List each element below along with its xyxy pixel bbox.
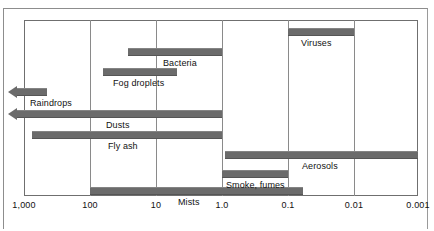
arrow-left-icon <box>8 86 17 98</box>
arrow-left-icon <box>8 108 17 120</box>
x-tick-label: 1,000 <box>12 200 36 211</box>
gridline-100 <box>90 20 91 196</box>
bar-label: Bacteria <box>163 58 197 69</box>
range-bar-bacteria <box>128 48 222 56</box>
range-bar-fly-ash <box>32 131 222 139</box>
range-bar-fog-droplets <box>103 68 177 76</box>
range-bar-dusts <box>17 110 222 118</box>
x-tick-label: 0.1 <box>281 200 294 211</box>
bar-label: Raindrops <box>30 98 72 109</box>
x-tick-label: 0.001 <box>406 200 430 211</box>
x-tick-label: 0.01 <box>345 200 363 211</box>
plot-area-frame <box>24 20 418 196</box>
bar-label: Dusts <box>106 120 130 131</box>
bar-label: Fly ash <box>108 141 138 152</box>
range-bar-smoke-fumes <box>222 170 288 178</box>
bar-label: Fog droplets <box>113 78 164 89</box>
gridline-01 <box>288 20 289 196</box>
bar-label: Aerosols <box>302 161 338 172</box>
gridline-10 <box>156 20 157 196</box>
gridline-001 <box>354 20 355 196</box>
range-bar-raindrops <box>17 88 47 96</box>
x-tick-label: 100 <box>82 200 98 211</box>
bar-label: Smoke, fumes <box>226 180 285 191</box>
bar-label: Mists <box>178 197 200 208</box>
particle-size-range-chart: VirusesBacteriaFog dropletsRaindropsDust… <box>0 0 434 231</box>
bar-label: Viruses <box>301 38 332 49</box>
x-tick-label: 10 <box>151 200 161 211</box>
range-bar-aerosols <box>225 151 418 159</box>
x-tick-label: 1.0 <box>215 200 228 211</box>
range-bar-viruses <box>288 28 354 36</box>
